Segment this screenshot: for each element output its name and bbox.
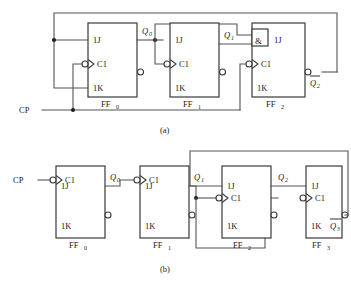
ff0-pin-j-label-a: 1J bbox=[93, 35, 101, 45]
ff1-qbar-bubble-b bbox=[189, 212, 195, 218]
signal-q2-subscript-b: 2 bbox=[285, 177, 288, 183]
ff0-qbar-bubble-a bbox=[138, 69, 144, 75]
ff1-pin-clk-label-a: C1 bbox=[179, 59, 189, 69]
ff3-pin-j-label-b: 1J bbox=[311, 181, 319, 191]
signal-q1-label-a: Q bbox=[224, 30, 230, 40]
ff1-name-subscript-a: 1 bbox=[198, 104, 201, 110]
ff2-name-subscript-a: 2 bbox=[281, 104, 284, 110]
ff0-name-label-b: FF bbox=[69, 240, 79, 250]
signal-q3bar-subscript-b: 3 bbox=[336, 226, 340, 232]
junction-dot-a-left bbox=[52, 38, 56, 42]
signal-q1-subscript-b: 1 bbox=[201, 177, 204, 183]
signal-q0-subscript-a: 0 bbox=[149, 31, 152, 37]
signal-q0-label-a: Q bbox=[142, 26, 148, 36]
ff0-pin-k-label-b: 1K bbox=[61, 221, 72, 231]
ff1-name-subscript-b: 1 bbox=[168, 245, 171, 251]
ff3-clk-bubble-b bbox=[300, 195, 306, 201]
ff3-name-label-b: FF bbox=[312, 240, 322, 250]
ff2-pin-k-label-a: 1K bbox=[257, 83, 268, 93]
ff3-name-subscript-b: 3 bbox=[327, 245, 330, 251]
ff0-clk-bubble-b bbox=[50, 177, 56, 183]
signal-q2bar-subscript-a: 2 bbox=[317, 83, 320, 89]
cp-label-b: CP bbox=[13, 175, 24, 185]
and-gate-symbol-a: & bbox=[255, 36, 262, 46]
junction-dot-a-cp bbox=[71, 108, 75, 112]
ff2-pin-k-label-b: 1K bbox=[227, 221, 238, 231]
ff2-name-label-b: FF bbox=[233, 240, 243, 250]
ff0-pin-clk-label-b: C1 bbox=[65, 175, 75, 185]
cp-label-a: CP bbox=[19, 105, 30, 115]
signal-q0-subscript-b: 0 bbox=[117, 177, 120, 183]
diagram-a: 1J C1 1K FF 0 1J C1 1K FF 1 & 1J C1 1K F… bbox=[19, 13, 337, 135]
wire-b-q1-drop bbox=[189, 186, 196, 198]
caption-a: (a) bbox=[160, 125, 170, 135]
ff1-pin-clk-label-b: C1 bbox=[149, 175, 159, 185]
ff0-name-subscript-b: 0 bbox=[84, 245, 87, 251]
ff1-pin-k-label-b: 1K bbox=[145, 221, 156, 231]
ff2-pin-clk-label-a: C1 bbox=[261, 59, 271, 69]
signal-q1-subscript-a: 1 bbox=[231, 35, 234, 41]
wire-a-q0-to-ff1-clk bbox=[155, 40, 165, 64]
wire-a-cp-to-ff2-clk bbox=[240, 64, 250, 110]
caption-b: (b) bbox=[160, 264, 170, 274]
ff2-clk-bubble-b bbox=[216, 195, 222, 201]
ff0-clk-bubble-a bbox=[82, 61, 88, 67]
ff2-name-subscript-b: 2 bbox=[248, 245, 251, 251]
ff0-pin-k-label-a: 1K bbox=[93, 83, 104, 93]
ff2-pin-clk-label-b: C1 bbox=[231, 193, 241, 203]
ff2-qbar-bubble-a bbox=[305, 69, 311, 75]
ff1-name-label-a: FF bbox=[183, 99, 193, 109]
ff2-qbar-bubble-b bbox=[271, 212, 277, 218]
ff1-qbar-bubble-a bbox=[220, 69, 226, 75]
ff2-clk-bubble-a bbox=[246, 61, 252, 67]
signal-q2-label-b: Q bbox=[278, 172, 284, 182]
diagram-b: CP bbox=[13, 151, 348, 274]
ff1-clk-bubble-b bbox=[134, 177, 140, 183]
ff0-name-label-a: FF bbox=[101, 99, 111, 109]
figure-root: 1J C1 1K FF 0 1J C1 1K FF 1 & 1J C1 1K F… bbox=[0, 0, 351, 282]
signal-q0-label-b: Q bbox=[110, 172, 116, 182]
signal-q2bar-label-a: Q bbox=[310, 78, 316, 88]
ff3-pin-k-label-b: 1K bbox=[311, 221, 322, 231]
ff1-pin-k-label-a: 1K bbox=[175, 83, 186, 93]
ff2-pin-j-label-a: 1J bbox=[274, 35, 282, 45]
ff0-qbar-bubble-b bbox=[105, 212, 111, 218]
signal-q3bar-label-b: Q bbox=[330, 221, 336, 231]
circuit-diagram-svg: 1J C1 1K FF 0 1J C1 1K FF 1 & 1J C1 1K F… bbox=[0, 0, 351, 282]
signal-q1-label-b: Q bbox=[194, 172, 200, 182]
ff1-clk-bubble-a bbox=[164, 61, 170, 67]
ff2-pin-j-label-b: 1J bbox=[227, 181, 235, 191]
ff0-pin-clk-label-a: C1 bbox=[97, 59, 107, 69]
wire-a-cp-to-ff0-clk bbox=[73, 64, 83, 110]
ff1-name-label-b: FF bbox=[153, 240, 163, 250]
ff3-pin-clk-label-b: C1 bbox=[315, 193, 325, 203]
ff1-pin-j-label-a: 1J bbox=[175, 35, 183, 45]
ff0-name-subscript-a: 0 bbox=[116, 104, 119, 110]
ff2-name-label-a: FF bbox=[266, 99, 276, 109]
